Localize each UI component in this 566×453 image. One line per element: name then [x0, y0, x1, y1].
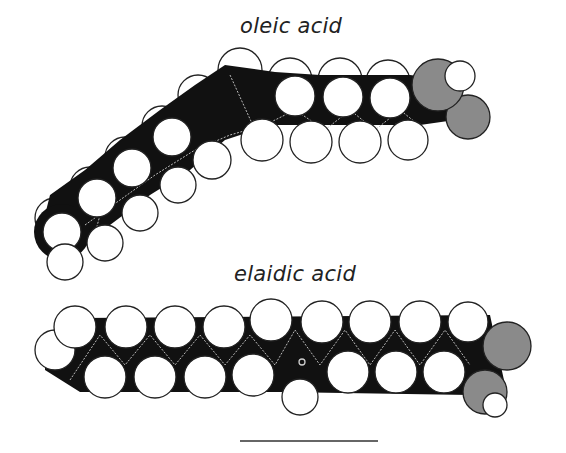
oleic-acid-model: [34, 48, 490, 280]
elaidic-acid-model: [35, 299, 531, 417]
molecule-diagram: [0, 0, 566, 453]
